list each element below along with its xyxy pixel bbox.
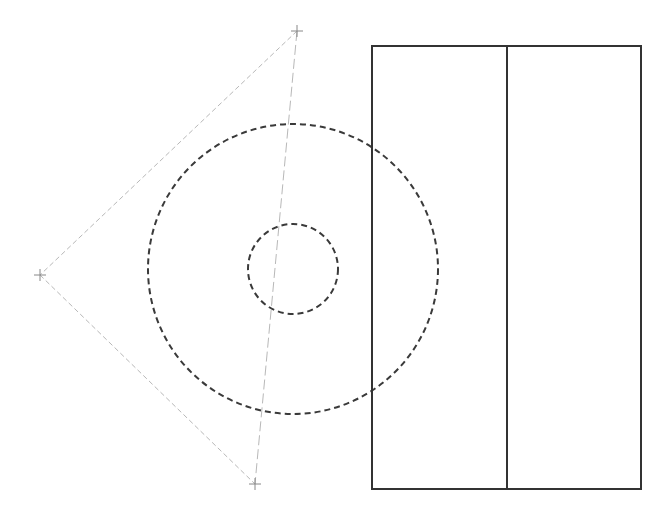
dashed-circles-layer [148, 124, 438, 414]
crosshair-marker-top-icon[interactable] [291, 25, 303, 37]
construction-line-left-bottom[interactable] [40, 275, 255, 484]
construction-line-top-left[interactable] [40, 31, 297, 275]
drawing-svg [0, 0, 669, 512]
rectangle-layer [372, 46, 641, 489]
drawing-canvas[interactable] [0, 0, 669, 512]
markers-layer [34, 25, 303, 490]
circle-inner[interactable] [248, 224, 338, 314]
construction-line-top-bottom[interactable] [255, 31, 297, 484]
circle-outer[interactable] [148, 124, 438, 414]
crosshair-marker-bottom-icon[interactable] [249, 478, 261, 490]
construction-lines-layer [40, 31, 297, 484]
